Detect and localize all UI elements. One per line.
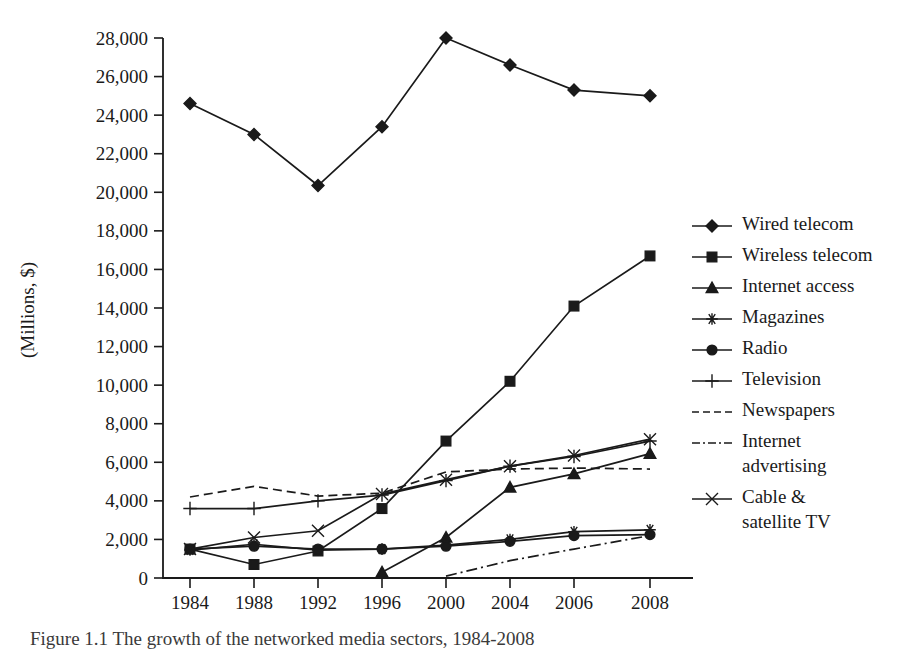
y-axis-tick-label: 16,000 <box>96 259 148 280</box>
y-axis-tick-label: 10,000 <box>96 375 148 396</box>
figure-caption: Figure 1.1 The growth of the networked m… <box>30 628 890 650</box>
legend-label: Television <box>742 368 821 389</box>
legend-item-internet-access[interactable]: Internet access <box>692 275 854 296</box>
chart-axes: 02,0004,0006,0008,00010,00012,00014,0001… <box>17 28 693 614</box>
square-marker <box>707 252 717 262</box>
x-axis-tick-label: 1988 <box>235 592 273 613</box>
asterisk-marker <box>706 313 718 325</box>
diamond-marker <box>184 98 196 110</box>
square-marker <box>441 436 451 446</box>
circle-marker <box>249 541 259 551</box>
circle-marker <box>569 531 579 541</box>
y-axis-tick-label: 12,000 <box>96 336 148 357</box>
square-marker <box>249 560 259 570</box>
circle-marker <box>377 544 387 554</box>
diamond-marker <box>504 59 516 71</box>
x-axis-tick-label: 1992 <box>299 592 337 613</box>
y-axis-tick-label: 8,000 <box>105 413 148 434</box>
series-internet-access <box>376 448 656 577</box>
y-axis-tick-label: 18,000 <box>96 220 148 241</box>
diamond-marker <box>706 220 718 232</box>
circle-marker <box>441 541 451 551</box>
diamond-marker <box>568 84 580 96</box>
series-radio <box>185 530 655 554</box>
y-axis-tick-label: 4,000 <box>105 490 148 511</box>
square-marker <box>505 376 515 386</box>
x-axis-tick-label: 2006 <box>555 592 593 613</box>
legend-label: Magazines <box>742 306 824 327</box>
legend-item-internet-advertising[interactable]: Internetadvertising <box>692 430 827 476</box>
x-axis-tick-label: 1984 <box>171 592 210 613</box>
y-axis-tick-label: 28,000 <box>96 28 148 49</box>
triangle-marker <box>644 448 656 458</box>
circle-marker <box>707 345 717 355</box>
legend-label: Internet <box>742 430 802 451</box>
series-line <box>190 256 650 565</box>
plus-marker <box>183 502 196 515</box>
square-marker <box>377 504 387 514</box>
y-axis-tick-label: 22,000 <box>96 143 148 164</box>
series-cable-satellite-tv <box>184 433 656 555</box>
legend-label: Internet access <box>742 275 854 296</box>
diamond-marker <box>440 32 452 44</box>
diamond-marker <box>644 90 656 102</box>
series-line <box>190 38 650 186</box>
legend-label: Wireless telecom <box>742 244 873 265</box>
y-axis-tick-label: 6,000 <box>105 452 148 473</box>
plus-marker <box>643 434 656 447</box>
x-axis-tick-label: 2000 <box>427 592 465 613</box>
triangle-marker <box>376 566 388 576</box>
y-axis-tick-label: 26,000 <box>96 66 148 87</box>
square-marker <box>569 301 579 311</box>
circle-marker <box>313 544 323 554</box>
circle-marker <box>645 530 655 540</box>
legend-item-magazines[interactable]: Magazines <box>692 306 824 327</box>
legend-label: Wired telecom <box>742 213 854 234</box>
y-axis-tick-label: 20,000 <box>96 182 148 203</box>
legend-item-cable-satellite-tv[interactable]: Cable &satellite TV <box>692 486 831 532</box>
y-axis-tick-label: 0 <box>139 568 149 589</box>
series-line <box>190 441 650 509</box>
square-marker <box>645 251 655 261</box>
y-axis-tick-label: 24,000 <box>96 105 148 126</box>
legend-label: Cable & <box>742 486 806 507</box>
legend-label: satellite TV <box>742 511 831 532</box>
chart-series-layer <box>183 32 656 577</box>
plus-marker <box>705 374 718 387</box>
circle-marker <box>505 536 515 546</box>
y-axis-title: (Millions, $) <box>17 262 39 358</box>
series-wired-telecom <box>184 32 656 192</box>
legend-item-wired-telecom[interactable]: Wired telecom <box>692 213 854 234</box>
x-axis-tick-label: 2008 <box>631 592 669 613</box>
legend-label: Radio <box>742 337 787 358</box>
series-television <box>183 434 656 515</box>
x-axis-tick-label: 1996 <box>363 592 401 613</box>
x-axis-tick-label: 2004 <box>491 592 530 613</box>
legend-label: Newspapers <box>742 399 835 420</box>
legend-item-newspapers[interactable]: Newspapers <box>692 399 835 420</box>
series-wireless-telecom <box>185 251 655 569</box>
plus-marker <box>247 502 260 515</box>
legend-item-television[interactable]: Television <box>692 368 821 389</box>
legend-item-wireless-telecom[interactable]: Wireless telecom <box>692 244 873 265</box>
y-axis-tick-label: 14,000 <box>96 298 148 319</box>
legend-item-radio[interactable]: Radio <box>692 337 787 358</box>
legend-label: advertising <box>742 455 827 476</box>
y-axis-tick-label: 2,000 <box>105 529 148 550</box>
chart-legend: Wired telecomWireless telecomInternet ac… <box>692 213 873 532</box>
